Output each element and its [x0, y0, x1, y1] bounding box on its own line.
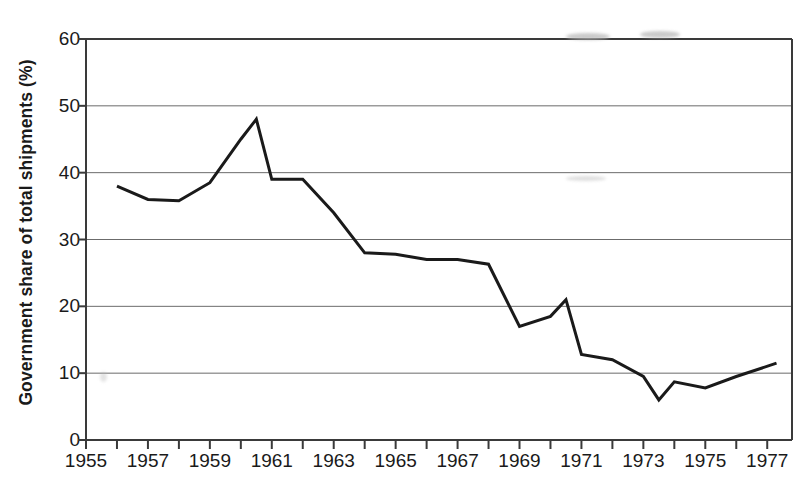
scan-artifact-one [566, 33, 610, 40]
scan-artifact-four [100, 372, 107, 382]
chart-figure: Government share of total shipments (%) … [0, 0, 811, 504]
y-axis-ticks [78, 39, 86, 440]
x-axis-ticks [86, 440, 767, 449]
scan-artifact-two [640, 31, 680, 38]
gridlines [86, 106, 792, 373]
plot-area [0, 0, 811, 504]
scan-artifact-three [566, 176, 606, 181]
data-series-line [117, 119, 777, 400]
